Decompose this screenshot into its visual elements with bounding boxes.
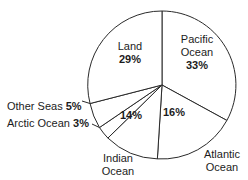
slice-label-other-seas-name: Other Seas: [7, 100, 63, 112]
slice-label-pacific-ocean-pct: 33%: [186, 59, 208, 71]
slice-label-arctic-ocean: Arctic Ocean 3%: [7, 117, 89, 130]
slice-label-atlantic-ocean-name-line2: Ocean: [206, 161, 238, 173]
slice-label-atlantic-ocean-pct: 16%: [163, 106, 185, 119]
slice-label-pacific-ocean-name-line1: Pacific: [181, 33, 213, 45]
slice-label-pacific-ocean-name-line2: Ocean: [181, 46, 213, 58]
slice-label-other-seas-pct: 5%: [66, 100, 82, 112]
slice-label-arctic-ocean-name: Arctic Ocean: [7, 117, 70, 129]
slice-label-land-pct: 29%: [119, 53, 141, 65]
slice-label-indian-ocean-name-line2: Ocean: [102, 165, 134, 177]
slice-label-other-seas: Other Seas 5%: [7, 100, 82, 113]
leader-line-other-seas: [82, 101, 90, 104]
slice-label-indian-ocean-pct: 14%: [120, 109, 142, 122]
slice-label-indian-ocean-name-line1: Indian: [103, 152, 133, 164]
slice-label-arctic-ocean-pct: 3%: [73, 117, 89, 129]
slice-label-atlantic-ocean-name-line1: Atlantic: [204, 148, 240, 160]
slice-label-pacific-ocean: Pacific Ocean 33%: [170, 33, 224, 72]
slice-label-land: Land 29%: [104, 40, 156, 66]
slice-label-land-name: Land: [118, 40, 142, 52]
slice-label-indian-ocean-name: Indian Ocean: [92, 152, 144, 178]
pie-chart: Land 29% Pacific Ocean 33% 14% 16% Other…: [0, 0, 248, 180]
slice-label-atlantic-ocean-name: Atlantic Ocean: [197, 148, 247, 174]
